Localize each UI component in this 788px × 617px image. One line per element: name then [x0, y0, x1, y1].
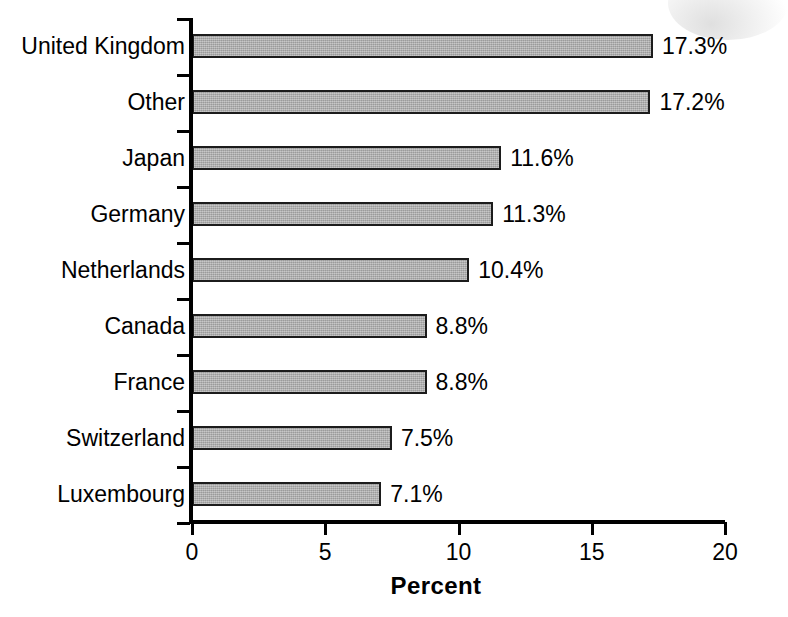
- category-label: Netherlands: [61, 242, 189, 298]
- bar: [192, 370, 427, 394]
- category-label: Luxembourg: [57, 466, 189, 522]
- chart-row: Canada8.8%: [0, 298, 762, 354]
- x-axis-tick: [191, 522, 194, 535]
- y-axis-tick: [177, 298, 190, 301]
- x-axis-tick: [458, 522, 461, 535]
- bar-value-label: 17.3%: [653, 33, 727, 59]
- chart-row: Japan11.6%: [0, 130, 762, 186]
- y-axis-line: [189, 18, 193, 524]
- chart-row: Other17.2%: [0, 74, 762, 130]
- bar-value-label: 8.8%: [427, 313, 488, 339]
- x-axis-title-text: Percent: [281, 572, 482, 600]
- bar-value-label: 11.6%: [501, 145, 574, 171]
- chart-row: Netherlands10.4%: [0, 242, 762, 298]
- y-axis-tick: [177, 410, 190, 413]
- x-axis-tick-label: 10: [429, 538, 489, 566]
- y-axis-tick: [177, 130, 190, 133]
- bar: [192, 146, 501, 170]
- bar-value-label: 7.5%: [392, 425, 453, 451]
- x-axis-tick: [724, 522, 727, 535]
- x-axis-tick-label: 5: [295, 538, 355, 566]
- bar-value-label: 17.2%: [650, 89, 724, 115]
- bar: [192, 482, 381, 506]
- y-axis-tick: [177, 242, 190, 245]
- bar: [192, 202, 493, 226]
- x-axis-tick-label: 15: [562, 538, 622, 566]
- chart-row: United Kingdom17.3%: [0, 18, 762, 74]
- bar: [192, 426, 392, 450]
- x-axis-title: Percent: [0, 572, 762, 600]
- y-axis-tick: [177, 74, 190, 77]
- y-axis-tick: [177, 522, 190, 525]
- bar: [192, 314, 427, 338]
- category-label: Japan: [122, 130, 189, 186]
- chart-row: Switzerland7.5%: [0, 410, 762, 466]
- category-label: Switzerland: [66, 410, 189, 466]
- x-axis-tick-label: 20: [695, 538, 755, 566]
- category-label: Canada: [104, 298, 189, 354]
- x-axis-tick-label: 0: [162, 538, 222, 566]
- y-axis-tick: [177, 186, 190, 189]
- chart-row: Luxembourg7.1%: [0, 466, 762, 522]
- category-label: France: [113, 354, 189, 410]
- x-axis-tick: [591, 522, 594, 535]
- y-axis-tick: [177, 18, 190, 21]
- bar-value-label: 10.4%: [469, 257, 543, 283]
- bar-value-label: 7.1%: [381, 481, 442, 507]
- bar: [192, 90, 650, 114]
- bar-value-label: 11.3%: [493, 201, 566, 227]
- bar-value-label: 8.8%: [427, 369, 488, 395]
- y-axis-tick: [177, 466, 190, 469]
- x-axis-tick: [324, 522, 327, 535]
- category-label: United Kingdom: [21, 18, 189, 74]
- y-axis-tick: [177, 354, 190, 357]
- chart-row: France8.8%: [0, 354, 762, 410]
- category-label: Germany: [90, 186, 189, 242]
- chart-row: Germany11.3%: [0, 186, 762, 242]
- category-label: Other: [127, 74, 189, 130]
- bar: [192, 258, 469, 282]
- bar: [192, 34, 653, 58]
